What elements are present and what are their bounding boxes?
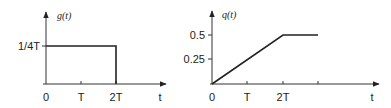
q-curve — [212, 35, 318, 84]
g-x-tick-0: 0 — [43, 91, 49, 103]
g-x-tick-T: T — [78, 91, 85, 103]
g-y-tick-label: 1/4T — [18, 40, 40, 52]
g-function-label: g(t) — [57, 10, 72, 22]
q-x-axis-label: t — [370, 91, 373, 103]
figure: g(t) 1/4T 0 T 2T t q(t) 0.5 0.25 0 T 2T … — [0, 0, 391, 108]
q-x-tick-0: 0 — [209, 91, 215, 103]
q-x-tick-T: T — [244, 91, 251, 103]
chart-g: g(t) 1/4T 0 T 2T t — [18, 10, 166, 103]
q-y-tick-0.5: 0.5 — [190, 29, 205, 41]
chart-q: q(t) 0.5 0.25 0 T 2T t — [184, 9, 379, 103]
g-curve — [46, 46, 116, 84]
g-x-tick-2T: 2T — [110, 91, 123, 103]
q-function-label: q(t) — [222, 9, 237, 21]
q-x-tick-2T: 2T — [277, 91, 290, 103]
q-y-tick-0.25: 0.25 — [184, 53, 205, 65]
g-x-axis-label: t — [158, 91, 161, 103]
